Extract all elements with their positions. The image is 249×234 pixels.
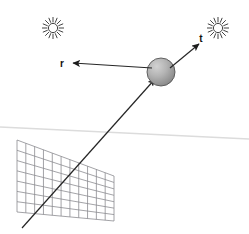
transmitted-ray: [170, 44, 199, 68]
light-source-left: [42, 17, 64, 39]
ray-diagram-figure: r t: [0, 0, 249, 234]
horizon-line: [0, 127, 249, 139]
transmitted-vector-label: t: [199, 33, 203, 44]
incident-ray: [22, 79, 155, 228]
sphere: [147, 58, 175, 86]
diagram-canvas: r t: [0, 0, 249, 234]
reflected-vector-label: r: [60, 58, 64, 69]
reflected-ray: [73, 63, 152, 68]
light-source-right: [207, 17, 229, 39]
image-plane-grid: [17, 140, 114, 221]
